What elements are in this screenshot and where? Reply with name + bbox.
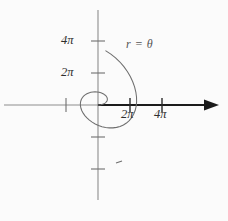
curve-equation-label: r = θ <box>126 38 153 50</box>
spiral-direction-tick <box>116 161 122 163</box>
x-axis-arrowhead <box>204 100 219 111</box>
y-axis-label-4pi: 4π <box>61 34 74 47</box>
figure-canvas <box>0 0 228 221</box>
x-axis-label-4pi: 4π <box>154 108 167 121</box>
x-axis-label-2pi: 2π <box>121 108 134 121</box>
y-axis-label-2pi: 2π <box>61 66 74 79</box>
polar-spiral-figure: 4π 2π 2π 4π r = θ <box>0 0 228 221</box>
